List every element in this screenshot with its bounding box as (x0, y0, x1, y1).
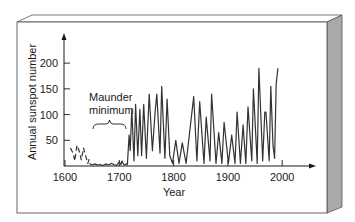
annotation-line-1: Maunder (89, 91, 133, 103)
y-tick-label: 200 (40, 57, 58, 69)
y-tick-label: 50 (46, 134, 58, 146)
x-axis-title: Year (163, 186, 186, 198)
x-tick-label: 1600 (53, 171, 77, 183)
chart-svg: 50100150200 16001700180019002000 Annual … (0, 0, 355, 222)
y-tick-label: 150 (40, 83, 58, 95)
y-axis-title: Annual sunspot number (26, 44, 38, 161)
frame-side-panel (327, 15, 342, 213)
x-tick-label: 1700 (107, 171, 131, 183)
frame-top-face (17, 15, 342, 22)
x-tick-label: 1900 (216, 171, 240, 183)
frame-box (17, 15, 342, 213)
y-tick-label: 100 (40, 109, 58, 121)
x-tick-label: 1800 (161, 171, 185, 183)
annotation-line-2: minimum (89, 104, 134, 116)
x-tick-label: 2000 (270, 171, 294, 183)
